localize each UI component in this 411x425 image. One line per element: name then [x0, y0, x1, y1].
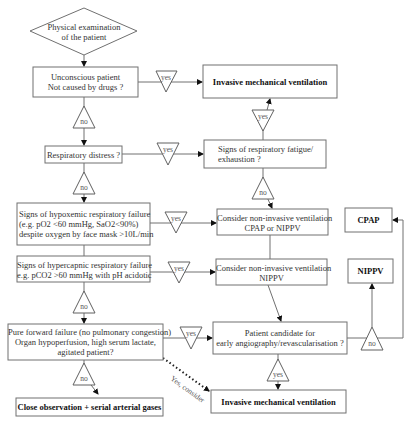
unconscious-line2: Not caused by drugs ? [33, 82, 138, 92]
invasive-top-node: Invasive mechanical ventilation [203, 77, 337, 87]
yes-label-6: yes [179, 329, 203, 338]
angiography-line1: Patient candidate for [213, 328, 347, 338]
hypercapnic-line1: Signs of hypercapnic respiratory failure [17, 260, 150, 270]
niv-cpap-nippv-line2: CPAP or NIPPV [217, 223, 328, 233]
forward-failure-line3: agitated patient? [8, 347, 163, 357]
no-label-5: no [360, 339, 384, 348]
yes-label-4: yes [164, 214, 188, 223]
hypercapnic-line2: e.g. pCO2 >60 mmHg with pH acidotic [17, 270, 150, 280]
yes-label-1: yes [154, 73, 178, 82]
fatigue-line2: exhaustion ? [218, 154, 324, 164]
no-label-6: no [72, 374, 96, 383]
forward-failure-line1: Pure forward failure (no pulmonary conge… [8, 327, 163, 337]
close-observation-node: Close observation + serial arterial gase… [16, 402, 163, 412]
nippv-node: NIPPV [348, 266, 393, 276]
fatigue-line1: Signs of respiratory fatigue/ [218, 144, 324, 154]
yes-label-3: yes [156, 145, 180, 154]
hypoxemic-node: Signs of hypoxemic respiratory failure (… [19, 209, 149, 239]
niv-nippv-line1: Consider non-invasive ventilation [216, 263, 327, 273]
niv-nippv-line2: NIPPV [216, 273, 327, 283]
niv-cpap-nippv-node: Consider non-invasive ventilation CPAP o… [217, 213, 328, 233]
angiography-line2: early angiography/revascularisation ? [213, 338, 347, 348]
niv-cpap-nippv-line1: Consider non-invasive ventilation [217, 213, 328, 223]
start-node: Physical examination of the patient [30, 22, 138, 42]
angiography-node: Patient candidate for early angiography/… [213, 328, 347, 348]
start-line1: Physical examination [30, 22, 138, 32]
forward-failure-node: Pure forward failure (no pulmonary conge… [8, 327, 163, 357]
respiratory-distress-node: Respiratory distress ? [45, 150, 122, 160]
no-label-3: no [251, 188, 275, 197]
yes-label-2: yes [251, 112, 275, 121]
start-line2: of the patient [30, 32, 138, 42]
unconscious-line1: Unconscious patient [33, 72, 138, 82]
cpap-node: CPAP [345, 215, 392, 225]
invasive-bottom-node: Invasive mechanical ventilation [211, 397, 346, 407]
yes-label-7: yes [266, 370, 290, 379]
forward-failure-line2: Organ hypoperfusion, high serum lactate, [8, 337, 163, 347]
hypoxemic-line2: (e.g. pO2 <60 mmHg, SaO2<90%) [19, 219, 149, 229]
no-label-1: no [72, 117, 96, 126]
niv-nippv-node: Consider non-invasive ventilation NIPPV [216, 263, 327, 283]
hypercapnic-node: Signs of hypercapnic respiratory failure… [17, 260, 150, 280]
yes-label-5: yes [167, 264, 191, 273]
unconscious-node: Unconscious patient Not caused by drugs … [33, 72, 138, 92]
hypoxemic-line1: Signs of hypoxemic respiratory failure [19, 209, 149, 219]
fatigue-node: Signs of respiratory fatigue/ exhaustion… [218, 144, 324, 164]
hypoxemic-line3: despite oxygen by face mask >10L/min [19, 229, 149, 239]
no-label-2: no [72, 183, 96, 192]
no-label-4: no [72, 302, 96, 311]
